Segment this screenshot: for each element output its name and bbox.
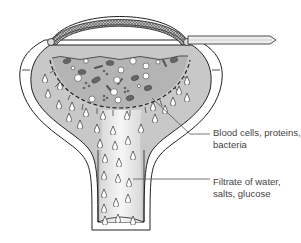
label-line: salts, glucose: [213, 188, 281, 200]
label-blood-cells: Blood cells, proteins, bacteria: [213, 127, 301, 151]
label-line: bacteria: [213, 139, 301, 151]
label-line: Blood cells, proteins,: [213, 127, 301, 139]
label-filtrate: Filtrate of water, salts, glucose: [213, 176, 281, 200]
label-line: Filtrate of water,: [213, 176, 281, 188]
filtration-diagram: [0, 0, 301, 243]
